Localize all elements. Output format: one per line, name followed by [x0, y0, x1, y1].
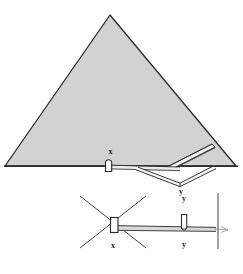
plan-shaft-y: [182, 215, 187, 231]
plan-label-x: x: [111, 241, 115, 250]
plan-view: x y y: [80, 193, 228, 250]
section-view: x y: [4, 15, 238, 196]
pyramid-diagram-figure: x y: [0, 0, 243, 274]
diagram-canvas: x y: [0, 0, 243, 274]
plan-entrance-chamber-x: [111, 218, 119, 233]
entrance-chamber-x-marker: [106, 160, 112, 172]
plan-label-y-lower: y: [182, 240, 186, 249]
pyramid-body-shape: [5, 15, 236, 166]
plan-label-y-upper: y: [182, 194, 186, 203]
section-label-x: x: [109, 147, 113, 156]
plan-horizontal-passage: [115, 226, 228, 233]
